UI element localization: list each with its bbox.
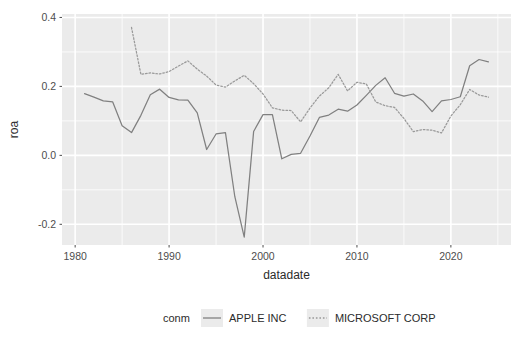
x-axis-title: datadate <box>263 268 310 282</box>
y-axis-tick-label: -0.2 <box>38 218 56 230</box>
x-axis-tick-label: 1980 <box>63 250 87 262</box>
legend-title: conm <box>163 312 190 324</box>
legend-label: MICROSOFT CORP <box>335 312 436 324</box>
y-axis-tick-label: 0.0 <box>41 149 56 161</box>
x-axis-tick-label: 2010 <box>345 250 369 262</box>
legend-label: APPLE INC <box>229 312 287 324</box>
roa-time-series-chart: -0.20.00.20.419801990200020102020datadat… <box>0 0 529 346</box>
legend-item-apple-inc[interactable]: APPLE INC <box>201 309 287 327</box>
legend-item-microsoft-corp[interactable]: MICROSOFT CORP <box>307 309 436 327</box>
x-axis-tick-label: 1990 <box>157 250 181 262</box>
y-axis-title: roa <box>7 121 21 139</box>
chart-canvas: -0.20.00.20.419801990200020102020datadat… <box>0 0 529 346</box>
y-axis-tick-label: 0.4 <box>41 11 56 23</box>
x-axis-tick-label: 2000 <box>251 250 275 262</box>
x-axis-tick-label: 2020 <box>439 250 463 262</box>
y-axis-tick-label: 0.2 <box>41 80 56 92</box>
